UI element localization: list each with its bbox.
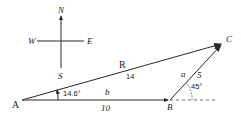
compass-rose: N S W E xyxy=(28,5,93,81)
vector-a-magnitude: 5 xyxy=(197,70,202,80)
compass-west-label: W xyxy=(28,36,37,46)
vector-diagram: N S W E 14.6° 45° A B C R 14 b 10 a 5 xyxy=(0,0,241,117)
angle-arc-a-icon xyxy=(57,90,58,100)
vector-r-magnitude: 14 xyxy=(126,72,134,81)
point-c-label: C xyxy=(226,34,233,44)
vector-a-name: a xyxy=(181,69,186,79)
point-a-label: A xyxy=(12,99,20,110)
vector-a xyxy=(170,45,221,100)
vector-b-magnitude: 10 xyxy=(101,103,111,113)
vector-r-name: R xyxy=(119,59,126,70)
angle-a-label: 14.6° xyxy=(63,89,81,98)
vector-b-name: b xyxy=(105,87,110,97)
point-b-label: B xyxy=(167,102,173,112)
compass-south-label: S xyxy=(58,71,63,81)
vector-r-resultant xyxy=(22,44,221,100)
compass-north-label: N xyxy=(57,5,65,15)
compass-east-label: E xyxy=(86,36,93,46)
angle-b-label: 45° xyxy=(191,82,202,91)
